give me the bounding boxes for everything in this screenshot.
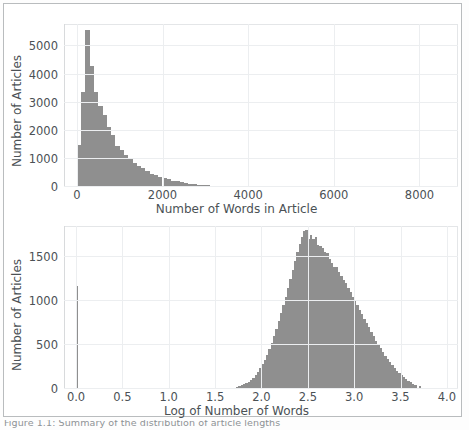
gridline-horizontal [64, 256, 458, 257]
y-tick-label: 1000 [29, 294, 58, 308]
gridline-vertical [122, 226, 123, 389]
gridline-horizontal [64, 344, 458, 345]
gridline-horizontal [64, 388, 458, 389]
figure-caption: Figure 1.1: Summary of the distribution … [4, 420, 459, 430]
x-tick-label: 6000 [319, 188, 348, 202]
x-tick-label: 2.0 [252, 390, 270, 404]
gridline-vertical [76, 226, 77, 389]
gridline-horizontal [64, 130, 458, 131]
x-tick-label: 3.0 [345, 390, 363, 404]
gridline-vertical [163, 24, 164, 187]
y-tick-labels-top: 010002000300040005000 [23, 8, 62, 214]
y-tick-label: 4000 [29, 68, 58, 82]
gridline-vertical [215, 226, 216, 389]
x-tick-label: 3.5 [391, 390, 409, 404]
gridline-horizontal [64, 186, 458, 187]
y-tick-label: 1500 [29, 250, 58, 264]
gridline-vertical [419, 24, 420, 187]
gridline-vertical [77, 24, 78, 187]
y-tick-label: 5000 [29, 39, 58, 53]
y-tick-label: 500 [36, 338, 58, 352]
y-tick-label: 0 [51, 382, 58, 396]
figure-page: Number of Articles 010002000300040005000… [0, 0, 469, 430]
x-tick-label: 2000 [148, 188, 177, 202]
gridline-horizontal [64, 45, 458, 46]
x-axis-label-bottom: Log of Number of Words [7, 404, 466, 418]
x-tick-label: 2.5 [299, 390, 317, 404]
gridline-horizontal [64, 300, 458, 301]
x-tick-label: 1.0 [160, 390, 178, 404]
histogram-bars-top [64, 24, 458, 187]
panel-words-histogram: Number of Articles 010002000300040005000… [7, 8, 466, 214]
plot-area-bottom [64, 226, 458, 389]
gridline-horizontal [64, 158, 458, 159]
x-tick-label: 0.5 [113, 390, 131, 404]
gridline-vertical [248, 24, 249, 187]
gridline-horizontal [64, 74, 458, 75]
y-tick-label: 1000 [29, 152, 58, 166]
gridline-vertical [334, 24, 335, 187]
plot-area-top [64, 24, 458, 187]
y-tick-label: 0 [51, 180, 58, 194]
gridline-vertical [261, 226, 262, 389]
gridline-vertical [308, 226, 309, 389]
y-tick-labels-bottom: 050010001500 [23, 212, 62, 418]
x-tick-label: 4.0 [438, 390, 456, 404]
y-tick-label: 3000 [29, 96, 58, 110]
gridline-horizontal [64, 102, 458, 103]
x-tick-label: 8000 [405, 188, 434, 202]
gridline-vertical [401, 226, 402, 389]
figure-frame: Number of Articles 010002000300040005000… [3, 3, 462, 417]
x-tick-label: 0.0 [67, 390, 85, 404]
gridline-vertical [169, 226, 170, 389]
x-tick-label: 1.5 [206, 390, 224, 404]
x-tick-label: 0 [73, 188, 80, 202]
y-tick-label: 2000 [29, 124, 58, 138]
gridline-vertical [354, 226, 355, 389]
x-tick-label: 4000 [234, 188, 263, 202]
panel-log-words-histogram: Number of Articles 050010001500 0.00.51.… [7, 212, 466, 418]
gridline-vertical [447, 226, 448, 389]
